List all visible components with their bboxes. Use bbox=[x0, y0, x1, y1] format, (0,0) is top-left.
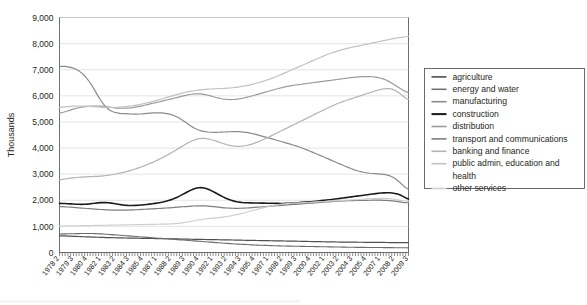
y-axis: 01,0002,0003,0004,0005,0006,0007,0008,00… bbox=[32, 13, 54, 258]
y-tick-label: 6,000 bbox=[32, 91, 54, 101]
legend-label: distribution bbox=[453, 121, 495, 131]
legend: agricultureenergy and watermanufacturing… bbox=[425, 69, 585, 194]
y-tick-label: 4,000 bbox=[32, 143, 54, 153]
legend-item[interactable]: transport and communications bbox=[432, 134, 568, 144]
chart-figure: 01,0002,0003,0004,0005,0006,0007,0008,00… bbox=[0, 0, 587, 305]
legend-label: banking and finance bbox=[453, 146, 530, 156]
y-tick-label: 7,000 bbox=[32, 65, 54, 75]
legend-label: public admin, education and bbox=[453, 158, 560, 168]
legend-label: agriculture bbox=[453, 72, 493, 82]
legend-label: construction bbox=[453, 109, 500, 119]
x-axis: 1978 21979 31980 41982 11983 21984 31985… bbox=[40, 254, 410, 277]
y-tick-label: 5,000 bbox=[32, 117, 54, 127]
legend-label: energy and water bbox=[453, 84, 520, 94]
legend-item[interactable]: health bbox=[453, 171, 477, 181]
line-chart: 01,0002,0003,0004,0005,0006,0007,0008,00… bbox=[0, 0, 587, 305]
y-tick-label: 8,000 bbox=[32, 39, 54, 49]
y-tick-label: 2,000 bbox=[32, 195, 54, 205]
y-axis-title: Thousands bbox=[6, 112, 16, 157]
y-tick-label: 9,000 bbox=[32, 13, 54, 23]
legend-label: transport and communications bbox=[453, 134, 568, 144]
legend-label: other services bbox=[453, 183, 507, 193]
y-tick-label: 1,000 bbox=[32, 222, 54, 232]
legend-label: health bbox=[453, 171, 477, 181]
y-tick-label: 3,000 bbox=[32, 169, 54, 179]
plot-area bbox=[60, 18, 409, 253]
legend-label: manufacturing bbox=[453, 96, 508, 106]
cropped-caption-smudge bbox=[0, 300, 300, 303]
